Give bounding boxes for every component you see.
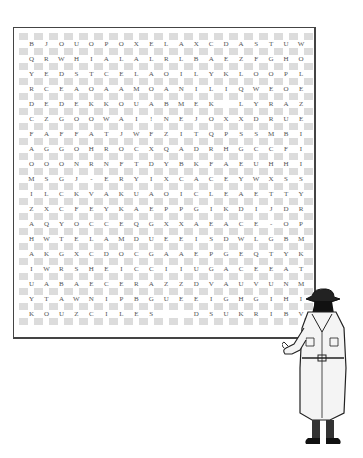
grid-letter[interactable]: G	[264, 55, 278, 63]
grid-letter[interactable]: O	[159, 70, 173, 78]
grid-letter[interactable]: L	[234, 70, 248, 78]
grid-letter[interactable]: O	[24, 160, 38, 168]
grid-letter[interactable]: A	[144, 70, 158, 78]
grid-letter[interactable]: W	[54, 55, 68, 63]
grid-letter[interactable]: R	[264, 115, 278, 123]
grid-letter[interactable]: A	[204, 55, 218, 63]
grid-letter[interactable]: Z	[24, 205, 38, 213]
grid-letter[interactable]: E	[159, 235, 173, 243]
grid-letter[interactable]: O	[279, 220, 293, 228]
grid-letter[interactable]: C	[144, 265, 158, 273]
grid-letter[interactable]: O	[69, 220, 83, 228]
grid-letter[interactable]: K	[114, 205, 128, 213]
grid-letter[interactable]: L	[234, 100, 248, 108]
grid-letter[interactable]: E	[264, 85, 278, 93]
grid-letter[interactable]: Z	[159, 130, 173, 138]
grid-letter[interactable]: I	[189, 85, 203, 93]
grid-letter[interactable]: F	[54, 130, 68, 138]
grid-letter[interactable]: I	[144, 175, 158, 183]
grid-letter[interactable]: L	[114, 310, 128, 318]
grid-letter[interactable]: D	[99, 250, 113, 258]
grid-letter[interactable]: L	[114, 55, 128, 63]
grid-letter[interactable]: M	[294, 280, 308, 288]
grid-letter[interactable]: S	[249, 40, 263, 48]
grid-letter[interactable]: W	[294, 40, 308, 48]
grid-letter[interactable]: A	[114, 115, 128, 123]
grid-letter[interactable]: C	[54, 205, 68, 213]
grid-letter[interactable]: W	[69, 295, 83, 303]
grid-letter[interactable]: K	[69, 190, 83, 198]
grid-letter[interactable]: A	[114, 85, 128, 93]
grid-letter[interactable]: D	[219, 235, 233, 243]
grid-letter[interactable]: E	[114, 220, 128, 228]
grid-letter[interactable]: F	[24, 130, 38, 138]
grid-letter[interactable]: A	[99, 190, 113, 198]
grid-letter[interactable]: X	[144, 145, 158, 153]
grid-letter[interactable]: G	[219, 295, 233, 303]
grid-letter[interactable]: L	[129, 70, 143, 78]
grid-letter[interactable]: G	[144, 220, 158, 228]
grid-letter[interactable]: C	[189, 190, 203, 198]
grid-letter[interactable]: H	[234, 295, 248, 303]
grid-letter[interactable]: G	[234, 145, 248, 153]
grid-letter[interactable]: Y	[279, 250, 293, 258]
grid-letter[interactable]: O	[84, 85, 98, 93]
grid-letter[interactable]: A	[174, 145, 188, 153]
grid-letter[interactable]: E	[294, 115, 308, 123]
grid-letter[interactable]: E	[54, 85, 68, 93]
grid-letter[interactable]: O	[279, 85, 293, 93]
grid-letter[interactable]: M	[114, 235, 128, 243]
grid-letter[interactable]: F	[69, 130, 83, 138]
grid-letter[interactable]: E	[234, 250, 248, 258]
grid-letter[interactable]: W	[249, 175, 263, 183]
grid-letter[interactable]: O	[114, 250, 128, 258]
grid-letter[interactable]: I	[204, 205, 218, 213]
grid-letter[interactable]: N	[159, 115, 173, 123]
grid-letter[interactable]: J	[39, 40, 53, 48]
grid-letter[interactable]: D	[189, 145, 203, 153]
grid-letter[interactable]: Z	[69, 310, 83, 318]
grid-letter[interactable]: O	[144, 85, 158, 93]
grid-letter[interactable]: O	[204, 115, 218, 123]
grid-letter[interactable]: A	[144, 190, 158, 198]
grid-letter[interactable]: N	[69, 160, 83, 168]
grid-letter[interactable]: E	[189, 250, 203, 258]
grid-letter[interactable]: A	[99, 55, 113, 63]
grid-letter[interactable]: O	[264, 70, 278, 78]
grid-letter[interactable]: I	[189, 235, 203, 243]
grid-letter[interactable]: R	[99, 145, 113, 153]
grid-letter[interactable]: G	[54, 115, 68, 123]
grid-letter[interactable]: A	[39, 280, 53, 288]
grid-letter[interactable]: I	[99, 295, 113, 303]
grid-letter[interactable]: X	[174, 220, 188, 228]
grid-letter[interactable]: U	[54, 310, 68, 318]
grid-letter[interactable]: A	[219, 220, 233, 228]
grid-letter[interactable]: H	[24, 235, 38, 243]
grid-letter[interactable]: W	[234, 235, 248, 243]
grid-letter[interactable]: C	[129, 250, 143, 258]
grid-letter[interactable]: I	[24, 265, 38, 273]
grid-letter[interactable]: E	[39, 70, 53, 78]
grid-letter[interactable]: Y	[54, 220, 68, 228]
grid-letter[interactable]: G	[249, 295, 263, 303]
grid-letter[interactable]: M	[294, 235, 308, 243]
grid-letter[interactable]: G	[54, 250, 68, 258]
grid-letter[interactable]: S	[294, 175, 308, 183]
grid-letter[interactable]: J	[189, 115, 203, 123]
grid-letter[interactable]: A	[84, 130, 98, 138]
grid-letter[interactable]: L	[39, 190, 53, 198]
grid-letter[interactable]: L	[84, 235, 98, 243]
grid-letter[interactable]: E	[114, 280, 128, 288]
grid-letter[interactable]: Y	[294, 190, 308, 198]
grid-letter[interactable]: S	[144, 310, 158, 318]
grid-letter[interactable]: E	[69, 235, 83, 243]
grid-letter[interactable]: V	[84, 190, 98, 198]
grid-letter[interactable]: O	[114, 40, 128, 48]
grid-letter[interactable]: L	[204, 190, 218, 198]
grid-letter[interactable]: C	[99, 280, 113, 288]
grid-letter[interactable]: A	[24, 145, 38, 153]
grid-letter[interactable]: L	[204, 85, 218, 93]
grid-letter[interactable]: T	[264, 250, 278, 258]
grid-letter[interactable]: T	[189, 130, 203, 138]
grid-letter[interactable]: X	[234, 115, 248, 123]
